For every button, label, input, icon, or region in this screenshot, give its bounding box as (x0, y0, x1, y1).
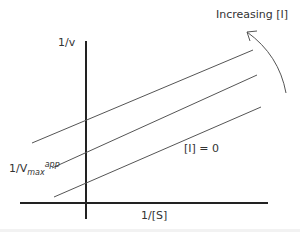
x-axis-label: 1/[S] (141, 209, 167, 222)
increasing-arrow-icon (247, 32, 286, 93)
vmax-app-sup: app (45, 160, 60, 169)
bottom-border (0, 229, 300, 232)
plot-line-high-inhibitor (32, 50, 253, 143)
zero-inhibitor-label: [I] = 0 (184, 142, 219, 155)
lineweaver-burk-diagram (0, 0, 300, 232)
y-axis-label: 1/v (58, 36, 75, 49)
vmax-app-label: 1/Vmaxapp (9, 160, 60, 177)
vmax-app-sub: max (27, 168, 44, 177)
vmax-app-main: 1/V (9, 162, 27, 175)
increasing-inhibitor-label: Increasing [I] (216, 8, 288, 21)
